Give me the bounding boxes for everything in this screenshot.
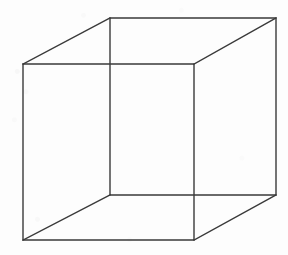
connector-bottom-left-edge bbox=[23, 195, 110, 240]
connector-bottom-right-edge bbox=[194, 195, 276, 240]
front-face-outline bbox=[23, 64, 194, 240]
connector-top-right-edge bbox=[194, 18, 276, 64]
necker-cube-figure bbox=[0, 0, 288, 255]
back-face-outline bbox=[110, 18, 276, 195]
connector-top-left-edge bbox=[23, 18, 110, 64]
cube-drawing-svg bbox=[0, 0, 288, 255]
